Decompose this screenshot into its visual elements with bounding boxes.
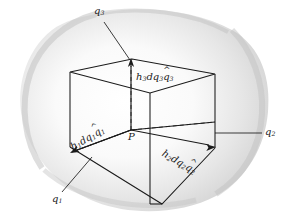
curvilinear-volume-element-figure: q3 q2 q1 P h3dq3^q3 h1dq1^q1 h2dq2^q2 [0,0,287,220]
diagram-canvas [0,0,287,220]
background-coordinate-patch [20,9,268,211]
